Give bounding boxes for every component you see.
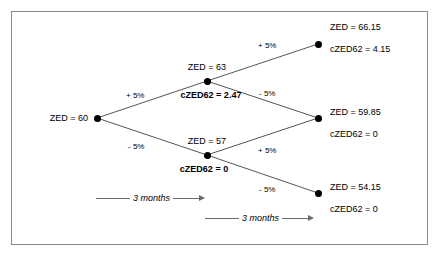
node-label-up-up-option: cZED62 = 4.15 bbox=[330, 44, 390, 55]
node-label-up-down-option: cZED62 = 0 bbox=[330, 129, 378, 140]
timeline-period-2: 3 months bbox=[205, 213, 314, 223]
node-dot-root bbox=[94, 115, 101, 122]
node-label-down-down-price: ZED = 54.15 bbox=[330, 182, 381, 193]
timeline-rule-left-1 bbox=[96, 198, 130, 199]
node-label-up-up-price: ZED = 66.15 bbox=[330, 22, 381, 33]
timeline-rule-left-2 bbox=[205, 218, 239, 219]
branch-label-down-down: - 5% bbox=[259, 184, 275, 195]
timeline-rule-right-2 bbox=[282, 218, 308, 219]
node-label-down-option: cZED62 = 0 bbox=[180, 164, 228, 175]
timeline-period-1: 3 months bbox=[96, 193, 205, 203]
arrow-right-icon bbox=[308, 215, 314, 221]
branch-label-up-down: - 5% bbox=[259, 88, 275, 99]
timeline-rule-right-1 bbox=[173, 198, 199, 199]
branch-label-root-up: + 5% bbox=[126, 90, 144, 101]
timeline-label-1: 3 months bbox=[133, 193, 170, 203]
timeline-label-2: 3 months bbox=[242, 213, 279, 223]
branch-label-down-up: + 5% bbox=[258, 145, 276, 156]
node-label-root-price: ZED = 60 bbox=[50, 113, 88, 124]
node-dot-up bbox=[204, 78, 211, 85]
node-dot-up-up bbox=[315, 41, 322, 48]
node-dot-down bbox=[204, 152, 211, 159]
branch-label-up-up: + 5% bbox=[258, 40, 276, 51]
node-dot-down-down bbox=[315, 190, 322, 197]
node-label-up-price: ZED = 63 bbox=[188, 62, 226, 73]
diagram-canvas: ZED = 60 ZED = 63 cZED62 = 2.47 ZED = 57… bbox=[0, 0, 441, 260]
node-label-up-option: cZED62 = 2.47 bbox=[181, 90, 242, 101]
node-label-down-down-option: cZED62 = 0 bbox=[330, 204, 378, 215]
arrow-right-icon bbox=[199, 195, 205, 201]
node-dot-up-down bbox=[315, 115, 322, 122]
branch-label-root-down: - 5% bbox=[128, 141, 144, 152]
node-label-down-price: ZED = 57 bbox=[188, 136, 226, 147]
node-label-up-down-price: ZED = 59.85 bbox=[330, 107, 381, 118]
